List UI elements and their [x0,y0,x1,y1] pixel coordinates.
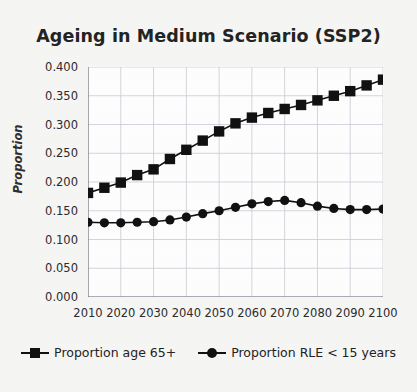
data-point-marker [198,209,207,218]
data-point-marker [165,215,174,224]
legend-label: Proportion RLE < 15 years [231,345,396,360]
data-point-marker [99,183,109,193]
data-point-marker [346,205,355,214]
data-point-marker [198,135,208,145]
chart-screenshot: Ageing in Medium Scenario (SSP2) Proport… [0,0,417,392]
data-point-marker [247,199,256,208]
y-axis-label: Proportion [11,119,25,199]
data-point-marker [263,108,273,118]
circle-marker-icon [198,347,226,359]
data-point-marker [329,204,338,213]
data-point-marker [215,206,224,215]
chart-legend: Proportion age 65+Proportion RLE < 15 ye… [0,345,417,360]
data-point-marker [132,170,142,180]
data-point-marker [100,218,109,227]
data-point-marker [230,118,240,128]
y-tick-label: 0.050 [26,261,78,275]
legend-label: Proportion age 65+ [54,345,176,360]
legend-marker-shape [207,348,217,358]
data-point-marker [148,164,158,174]
data-point-marker [378,204,383,213]
chart-canvas [88,67,383,297]
page-title: Ageing in Medium Scenario (SSP2) [0,26,417,46]
y-tick-label: 0.350 [26,89,78,103]
data-point-marker [116,218,125,227]
y-tick-label: 0.250 [26,146,78,160]
data-point-marker [280,196,289,205]
y-tick-label: 0.200 [26,175,78,189]
data-point-marker [247,112,257,122]
legend-entry[interactable]: Proportion age 65+ [21,345,176,360]
data-point-marker [296,198,305,207]
data-point-marker [149,217,158,226]
y-tick-label: 0.000 [26,290,78,304]
data-point-marker [279,104,289,114]
data-point-marker [329,91,339,101]
y-tick-label: 0.100 [26,233,78,247]
data-point-marker [296,100,306,110]
y-tick-label: 0.150 [26,204,78,218]
data-point-marker [165,154,175,164]
plot-area [88,67,383,297]
data-point-marker [264,197,273,206]
data-point-marker [214,126,224,136]
data-point-marker [116,177,126,187]
legend-marker-shape [30,348,40,358]
data-series [88,196,383,228]
data-point-marker [88,188,93,198]
y-tick-label: 0.300 [26,118,78,132]
y-tick-label: 0.400 [26,60,78,74]
data-point-marker [182,212,191,221]
data-point-marker [312,95,322,105]
x-axis-tick-labels: 2010202020302040205020602070208020902100 [0,306,417,324]
x-tick-label: 2100 [360,306,406,320]
data-point-marker [133,218,142,227]
square-marker-icon [21,347,49,359]
data-series [88,74,383,198]
data-point-marker [378,74,383,84]
legend-entry[interactable]: Proportion RLE < 15 years [198,345,396,360]
data-point-marker [313,202,322,211]
data-point-marker [181,145,191,155]
data-point-marker [362,205,371,214]
data-point-marker [361,80,371,90]
data-point-marker [88,218,93,227]
data-point-marker [345,86,355,96]
data-point-marker [231,203,240,212]
